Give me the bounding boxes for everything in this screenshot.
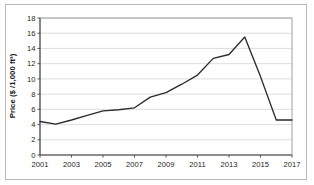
x-tick-label-2003: 2003 [63, 160, 80, 169]
x-tick-label-2011: 2011 [189, 160, 205, 169]
y-tick-label-18: 18 [27, 14, 35, 23]
y-tick-label-12: 12 [27, 59, 35, 68]
y-tick-label-4: 4 [31, 120, 35, 129]
line-chart: 024681012141618 200120032005200720092011… [0, 0, 314, 185]
y-tick-label-2: 2 [31, 135, 35, 144]
y-tick-label-14: 14 [27, 44, 35, 53]
data-series-line-price [40, 37, 292, 124]
y-tick-label-8: 8 [31, 90, 35, 99]
x-tick-label-2017: 2017 [284, 160, 301, 169]
x-tick-label-2015: 2015 [252, 160, 269, 169]
y-tick-label-6: 6 [31, 105, 35, 114]
plot-area-frame [40, 18, 292, 155]
y-tick-label-16: 16 [27, 29, 35, 38]
x-tick-label-2007: 2007 [126, 160, 143, 169]
figure-container: 024681012141618 200120032005200720092011… [0, 0, 314, 185]
y-tick-label-0: 0 [31, 151, 35, 160]
y-tick-labels-group: 024681012141618 [27, 14, 35, 160]
x-tick-label-2009: 2009 [158, 160, 175, 169]
y-axis-title: Price ($ /1,000 ft³) [8, 53, 17, 118]
gridlines-group [40, 18, 292, 140]
x-tick-labels-group: 200120032005200720092011201320152017 [32, 160, 301, 169]
x-tick-label-2001: 2001 [32, 160, 49, 169]
x-tick-label-2013: 2013 [221, 160, 238, 169]
y-tick-label-10: 10 [27, 75, 35, 84]
x-tick-label-2005: 2005 [95, 160, 112, 169]
